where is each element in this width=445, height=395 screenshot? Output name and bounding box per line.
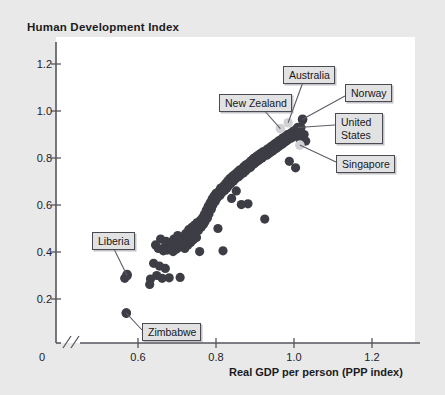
y-tick-label: 1.2 (22, 58, 52, 70)
callout-singapore[interactable]: Singapore (336, 155, 395, 173)
callout-norway[interactable]: Norway (345, 84, 392, 102)
y-tick-label: 0.6 (22, 199, 52, 211)
x-axis-title: Real GDP per person (PPP index) (229, 366, 403, 378)
callout-australia[interactable]: Australia (283, 66, 335, 84)
y-tick-label: 0.8 (22, 152, 52, 164)
data-point (243, 199, 252, 208)
leader-line (300, 145, 336, 162)
callout-united-states[interactable]: United States (335, 113, 383, 144)
data-point (176, 273, 185, 282)
callout-liberia[interactable]: Liberia (92, 232, 135, 250)
y-tick-label: 1.0 (22, 105, 52, 117)
chart-figure: Human Development Index 1.2 1.0 0.8 0.6 … (0, 0, 445, 395)
callout-new-zealand[interactable]: New Zealand (219, 94, 292, 112)
data-point (161, 264, 170, 273)
data-point (165, 273, 174, 282)
x-tick-label: 1.0 (274, 351, 314, 363)
data-point (195, 247, 204, 256)
y-tick-label: 0.2 (22, 293, 52, 305)
leader-line (113, 247, 127, 276)
callout-zimbabwe[interactable]: Zimbabwe (142, 323, 201, 341)
x-axis-zero-label: 0 (22, 351, 62, 363)
data-point (260, 215, 269, 224)
data-point (232, 186, 241, 195)
chart-canvas (0, 0, 445, 395)
data-points (120, 114, 310, 317)
data-point (291, 163, 300, 172)
x-tick-label: 0.8 (196, 351, 236, 363)
y-tick-label: 0.4 (22, 246, 52, 258)
leader-line (126, 313, 142, 330)
data-point (218, 246, 227, 255)
x-tick-label: 1.2 (352, 351, 392, 363)
data-point (213, 224, 222, 233)
callout-leader-lines (113, 82, 345, 330)
x-tick-label: 0.6 (118, 351, 158, 363)
